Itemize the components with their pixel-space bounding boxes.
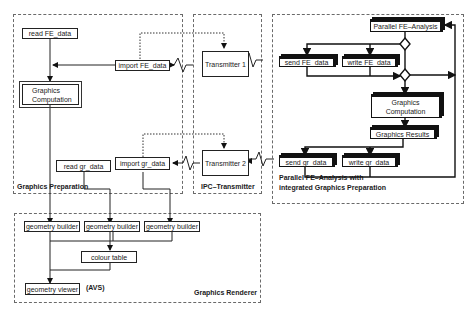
read-fe-data-box[interactable]: read FE_data	[22, 28, 78, 39]
graphics-computation-left-box[interactable]: Graphics Computation	[22, 84, 79, 105]
import-gr-data-box[interactable]: import gr_data	[115, 157, 170, 170]
send-fe-data-box[interactable]: send FE_data	[279, 56, 336, 67]
send-gr-data-box[interactable]: send gr_data	[279, 155, 335, 167]
geometry-builder-3-box[interactable]: geometry builder	[144, 221, 200, 232]
graphics-results-box[interactable]: Graphics Results	[370, 127, 437, 139]
transmitter-1-box[interactable]: Transmitter 1	[202, 51, 249, 77]
import-fe-data-box[interactable]: import FE_data	[115, 60, 170, 71]
parallel-fe-analysis-box[interactable]: Parallel FE–Analysis	[370, 19, 443, 32]
graphics-computation-right-box[interactable]: Graphics Computation	[371, 94, 442, 118]
avs-note: (AVS)	[86, 284, 105, 291]
geometry-builder-2-box[interactable]: geometry builder	[84, 221, 140, 232]
read-gr-data-box[interactable]: read gr_data	[56, 160, 111, 172]
write-gr-data-box[interactable]: write gr_data	[342, 155, 398, 167]
colour-table-box[interactable]: colour table	[81, 251, 137, 263]
geometry-viewer-box[interactable]: geometry viewer	[25, 283, 80, 295]
write-fe-data-box[interactable]: write FE_data	[342, 56, 398, 67]
geometry-builder-1-box[interactable]: geometry builder	[24, 221, 80, 232]
transmitter-2-box[interactable]: Transmitter 2	[202, 150, 249, 176]
